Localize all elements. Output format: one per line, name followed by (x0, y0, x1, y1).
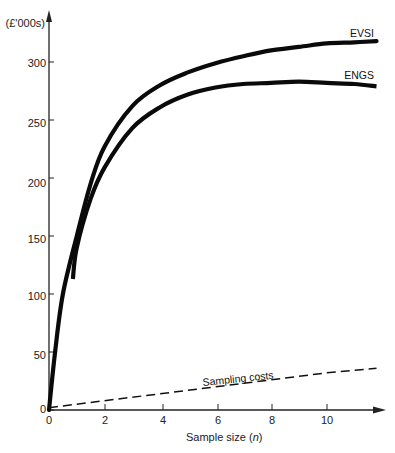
x-ticks: 0 2 4 6 8 10 (46, 404, 333, 426)
engs-curve (73, 82, 377, 279)
y-tick-label: 100 (28, 290, 46, 302)
x-tick-label: 6 (215, 414, 221, 426)
x-axis-title: Sample size (n) (186, 431, 262, 443)
x-axis-arrow-icon (373, 407, 386, 414)
y-tick-label: 50 (34, 349, 46, 361)
x-tick-label: 8 (269, 414, 275, 426)
evsi-curve (49, 41, 377, 410)
y-axis-arrow-icon (46, 10, 52, 22)
y-ticks: 0 50 100 150 200 250 300 (28, 57, 54, 415)
y-tick-label: 250 (28, 117, 46, 129)
x-tick-label: 10 (321, 414, 333, 426)
y-tick-label: 200 (28, 177, 46, 189)
x-tick-label: 4 (160, 414, 166, 426)
y-tick-label: 300 (28, 57, 46, 69)
line-chart: 0 50 100 150 200 250 300 (£'000s) 0 2 4 … (0, 0, 395, 453)
engs-label: ENGS (344, 69, 374, 81)
sampling-costs-label: Sampling costs (202, 369, 274, 388)
y-tick-label: 150 (28, 233, 46, 245)
evsi-label: EVSI (350, 27, 374, 39)
x-tick-label: 0 (46, 414, 52, 426)
y-axis-unit: (£'000s) (6, 17, 45, 29)
x-tick-label: 2 (102, 414, 108, 426)
